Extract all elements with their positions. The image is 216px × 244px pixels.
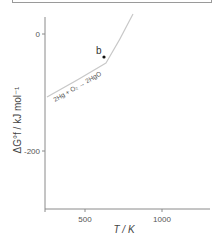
reaction-curve — [47, 14, 133, 97]
x-axis-label: T / K — [113, 224, 135, 235]
y-tick-label-0: 0 — [36, 30, 41, 39]
x-tick-label-1000: 1000 — [153, 215, 171, 224]
reaction-label: 2Hg + O₂ → 2HgO — [52, 70, 103, 104]
y-axis-label: ΔG°f / kJ mol⁻¹ — [12, 86, 23, 153]
point-b-label: b — [96, 45, 102, 56]
chart: 0 -200 500 1000 T / K ΔG°f / kJ mol⁻¹ b … — [0, 0, 216, 244]
point-b-marker — [102, 55, 105, 58]
y-tick-label-neg200: -200 — [24, 147, 41, 156]
x-tick-label-500: 500 — [78, 215, 92, 224]
